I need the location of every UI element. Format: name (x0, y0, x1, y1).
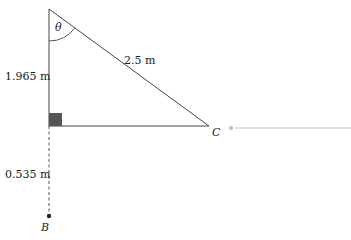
point-b-label: B (40, 221, 49, 234)
triangle-diagram: θ 2.5 m 1.965 m 0.535 m C B (0, 0, 351, 240)
vertical-upper-label: 1.965 m (5, 70, 51, 83)
angle-label: θ (55, 21, 62, 34)
right-angle-marker (49, 113, 62, 126)
vertical-lower-label: 0.535 m (5, 168, 51, 181)
extension-dot (229, 126, 233, 130)
hypotenuse (49, 9, 209, 126)
theta-arc (49, 28, 75, 41)
point-b-dot (47, 214, 51, 218)
hypotenuse-label: 2.5 m (124, 54, 156, 67)
point-c-label: C (212, 126, 221, 139)
